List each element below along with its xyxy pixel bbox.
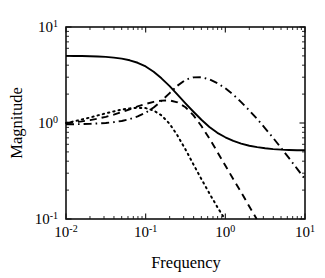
y-axis-label: Magnitude [7, 87, 26, 159]
figure-container: 10-210-1100101 10-1100101 Frequency Magn… [0, 0, 325, 278]
magnitude-frequency-chart: 10-210-1100101 10-1100101 Frequency Magn… [0, 0, 325, 278]
figure-background [0, 0, 325, 278]
x-axis-label: Frequency [151, 253, 221, 272]
